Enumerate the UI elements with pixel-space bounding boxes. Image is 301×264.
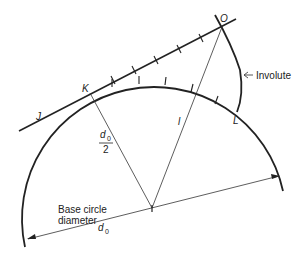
base-circle-label-line2: diameter (58, 215, 98, 226)
involute-label: Involute (256, 70, 291, 81)
involute-pointer-icon (244, 72, 253, 78)
point-l-label: L (233, 115, 239, 126)
base-circle-label-line1: Base circle (58, 204, 107, 215)
line-l (152, 27, 222, 208)
line-l-label: l (178, 116, 181, 127)
radius-num: d (100, 129, 106, 140)
diameter-symbol: d (98, 222, 104, 233)
arrowhead-left (27, 234, 36, 239)
radius-num-sub: 0 (107, 135, 111, 142)
diameter-sub: 0 (105, 228, 109, 235)
point-k-label: K (82, 83, 90, 94)
radius-den: 2 (103, 144, 109, 155)
radius-line (90, 93, 152, 208)
point-o-label: O (220, 13, 228, 24)
point-j-label: J (35, 111, 42, 122)
involute-diagram: O K L J l Involute d 0 2 Base circle dia… (0, 0, 301, 264)
involute-curve (215, 15, 241, 112)
